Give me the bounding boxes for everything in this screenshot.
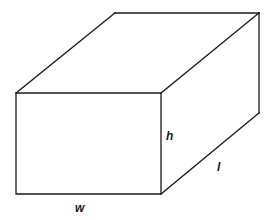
top-right-edge xyxy=(161,13,259,93)
bottom-right-edge xyxy=(161,113,259,194)
height-label: h xyxy=(166,130,173,142)
front-face xyxy=(16,93,161,194)
width-label: w xyxy=(75,202,84,214)
top-left-edge xyxy=(16,13,115,93)
length-label: l xyxy=(217,161,220,173)
box-diagram: h l w xyxy=(0,0,273,220)
rectangular-box-drawing xyxy=(0,0,273,220)
